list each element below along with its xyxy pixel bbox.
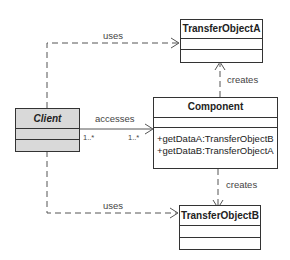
- creates-a-label: creates: [227, 74, 258, 85]
- attributes-compartment: [180, 225, 260, 237]
- uses-a-label: uses: [103, 30, 123, 41]
- operation: +getDataA:TransferObjectB: [157, 133, 277, 145]
- operation: +getDataB:TransferObjectA: [157, 145, 277, 157]
- uses-b-label: uses: [103, 200, 123, 211]
- accesses-label: accesses: [95, 113, 135, 124]
- operations-compartment: [16, 139, 79, 151]
- class-component[interactable]: Component +getDataA:TransferObjectB +get…: [153, 97, 278, 169]
- attributes-compartment: [154, 117, 277, 127]
- class-transfer-object-b[interactable]: TransferObjectB: [179, 205, 261, 250]
- operations-compartment: [181, 49, 262, 62]
- creates-b-label: creates: [226, 179, 257, 190]
- class-name: Client: [16, 109, 79, 128]
- operations-compartment: +getDataA:TransferObjectB +getDataB:Tran…: [154, 127, 277, 160]
- accesses-multiplicity-client: 1..*: [83, 133, 94, 142]
- class-name: TransferObjectB: [180, 206, 260, 225]
- class-name: TransferObjectA: [181, 20, 262, 38]
- class-name: Component: [154, 98, 277, 117]
- operations-compartment: [180, 237, 260, 249]
- class-transfer-object-a[interactable]: TransferObjectA: [180, 19, 263, 63]
- attributes-compartment: [181, 38, 262, 49]
- attributes-compartment: [16, 128, 79, 139]
- class-client[interactable]: Client: [15, 108, 80, 152]
- accesses-multiplicity-component: 1..*: [128, 133, 139, 142]
